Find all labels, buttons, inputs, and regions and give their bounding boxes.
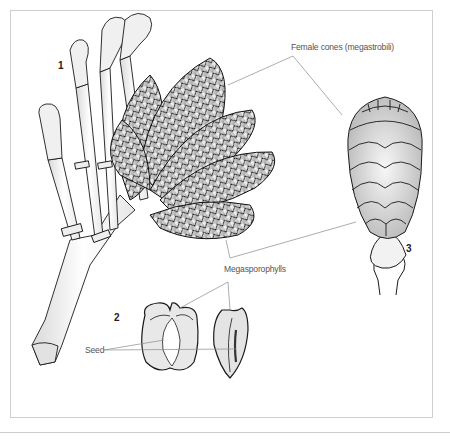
single-cone-illustration bbox=[348, 97, 422, 295]
megasporophyll-side bbox=[214, 308, 248, 378]
panel-number-3: 3 bbox=[406, 243, 412, 254]
panel-number-2: 2 bbox=[114, 312, 120, 323]
botanical-illustration bbox=[0, 0, 450, 441]
megasporophyll-front bbox=[142, 303, 198, 370]
label-seed: Seed bbox=[85, 344, 104, 355]
female-cone-cluster bbox=[110, 58, 274, 239]
label-megasporophylls: Megasporophylls bbox=[224, 263, 286, 274]
panel-number-1: 1 bbox=[58, 60, 64, 71]
label-female-cones: Female cones (megastrobili) bbox=[291, 41, 394, 52]
